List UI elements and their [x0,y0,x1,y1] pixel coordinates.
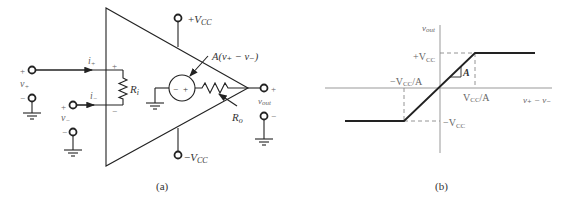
ri-label: Ri [129,83,139,97]
figure-a-opamp-model [23,8,273,166]
figure-b-labels: vout v₊ − v₋ +VCC −VCC VCC/A −VCC/A A (b… [390,23,551,193]
ground-icon [255,139,273,145]
figure-a-caption: (a) [156,180,169,193]
iminus-label: i− [90,90,98,103]
input-resistor-ri [119,70,127,105]
vminus-label: v− [61,112,70,125]
figure-b-caption: (b) [435,180,448,193]
tick-pos-x: VCC/A [463,92,490,104]
figure-b-transfer-curve [325,25,552,153]
iplus-label: i+ [88,55,96,68]
vcc-pos-label: +VCC [188,13,212,27]
vout-minus-sign: − [271,111,276,121]
source-plus-sign: + [183,84,188,94]
ground-icon [64,150,82,156]
tick-pos-vcc: +VCC [413,51,436,64]
vplus-ground-terminal [29,95,36,102]
ro-label: Ro [231,111,243,125]
tick-neg-x: −VCC/A [390,76,423,88]
ground-icon [23,113,41,119]
vout-ground-terminal [261,113,268,120]
tick-neg-vcc: −VCC [443,117,466,130]
vcc-neg-label: −VCC [184,151,208,165]
vout-terminal [261,85,268,92]
output-resistor-ro [195,83,248,93]
slope-label: A [462,67,470,78]
vplus-minus-sign: − [20,93,25,103]
y-axis-label: vout [422,23,436,34]
vcc-neg-terminal [175,152,182,159]
vplus-terminal [29,67,36,74]
diagram-canvas: +VCC −VCC + v+ − + v− − i+ i− + − Ri − +… [0,0,565,201]
ri-plus-sign: + [112,61,117,71]
source-minus-sign: − [173,84,178,94]
source-gain-label: A(v₊ − v₋) [211,51,259,63]
vout-label: vout [258,96,272,107]
vminus-plus-sign: + [61,102,66,112]
ground-icon [146,103,164,109]
vplus-plus-sign: + [20,66,25,76]
vminus-ground-terminal [70,129,77,136]
x-axis-label: v₊ − v₋ [523,95,551,105]
vplus-label: v+ [20,78,29,91]
vminus-terminal [70,102,77,109]
vout-plus-sign: + [271,84,276,94]
ri-minus-sign: − [112,106,117,116]
vminus-minus-sign: − [62,127,67,137]
vcc-pos-terminal [175,15,182,22]
